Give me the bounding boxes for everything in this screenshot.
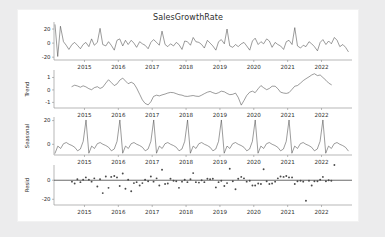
x-tick-label: 2019	[213, 159, 228, 165]
series-line-seasonal	[55, 120, 348, 153]
y-tick-label: -20	[42, 196, 51, 202]
panel-trend: 10-1Trend2015201620172018201920202021202…	[18, 70, 358, 122]
x-tick-label: 2021	[281, 209, 296, 215]
x-tick-label: 2015	[77, 159, 92, 165]
y-axis-label-seasonal: Seasonal	[24, 124, 30, 148]
y-axis-label-trend: Trend	[24, 82, 30, 98]
x-tick-label: 2018	[179, 159, 194, 165]
x-tick-label: 2015	[77, 64, 92, 70]
x-tick-label: 2019	[213, 209, 228, 215]
series-line-observed	[55, 25, 348, 57]
x-tick-label: 2016	[111, 64, 126, 70]
x-tick-label: 2022	[314, 209, 328, 215]
y-tick-label: -1	[45, 99, 50, 105]
y-tick-label: 0	[47, 87, 51, 93]
x-tick-label: 2020	[247, 209, 262, 215]
x-tick-label: 2020	[247, 64, 262, 70]
decomposition-figure: SalesGrowthRate 200-20201520162017201820…	[18, 10, 358, 221]
x-tick-label: 2017	[145, 64, 160, 70]
x-tick-label: 2017	[145, 209, 160, 215]
x-tick-label: 2019	[213, 64, 228, 70]
panel-seasonal: 200Seasonal20152016201720182019202020212…	[18, 117, 358, 169]
x-tick-label: 2016	[111, 159, 126, 165]
y-tick-label: 0	[47, 40, 51, 46]
x-tick-label: 2021	[281, 64, 296, 70]
chart-title: SalesGrowthRate	[18, 13, 358, 22]
panel-observed: 200-2020152016201720182019202020212022	[18, 22, 358, 74]
y-tick-label: -20	[42, 54, 51, 60]
x-tick-label: 2016	[111, 209, 126, 215]
x-tick-label: 2022	[314, 64, 328, 70]
x-tick-label: 2020	[247, 159, 262, 165]
y-tick-label: 20	[44, 26, 51, 32]
resid-points	[71, 164, 335, 202]
x-tick-label: 2018	[179, 209, 194, 215]
x-tick-label: 2017	[145, 159, 160, 165]
series-line-trend	[72, 74, 331, 105]
x-tick-label: 2021	[281, 159, 296, 165]
y-tick-label: 20	[44, 117, 51, 123]
x-tick-label: 2022	[314, 159, 328, 165]
y-tick-label: 0	[47, 141, 51, 147]
x-tick-label: 2015	[77, 209, 92, 215]
panel-resid: 0-20Resid2015201620172018201920202021202…	[18, 165, 358, 219]
y-axis-label-resid: Resid	[24, 178, 30, 193]
y-tick-label: 0	[47, 177, 51, 183]
y-tick-label: 1	[47, 74, 50, 80]
x-tick-label: 2018	[179, 64, 194, 70]
